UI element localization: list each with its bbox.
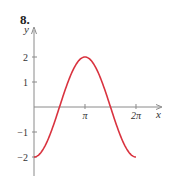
y-tick-label: 1	[23, 77, 28, 88]
x-tick-label: π	[82, 110, 88, 121]
x-axis-label: x	[155, 108, 161, 120]
y-tick-label: −2	[17, 152, 28, 163]
x-tick-label: 2π	[131, 110, 142, 121]
y-tick-label: 2	[23, 52, 28, 63]
y-axis-label: y	[23, 23, 29, 35]
chart: yx21−1−2π2π	[0, 0, 172, 184]
y-tick-label: −1	[17, 127, 28, 138]
